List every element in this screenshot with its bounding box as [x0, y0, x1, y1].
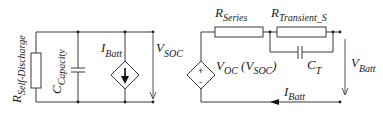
node-dot — [124, 31, 127, 34]
node-dot — [152, 31, 155, 34]
r-series-label: RSeries — [214, 5, 248, 23]
node-dot — [124, 101, 127, 104]
node-dot — [339, 101, 342, 104]
r-transient-label: RTransient_S — [270, 5, 327, 23]
r-transient-resistor — [277, 27, 326, 37]
node-dot — [332, 31, 335, 34]
v-oc-label: VOC (VSOC) — [216, 58, 277, 76]
c-capacity-label: CCapacity — [49, 49, 67, 94]
v-soc-label: VSOC — [156, 40, 183, 59]
circuit-diagram: RSelf-Discharge CCapacity IBatt VSOC + - — [0, 0, 383, 114]
arrow-left-icon — [270, 99, 279, 105]
minus-sign: - — [199, 77, 202, 87]
c-t-label: CT — [307, 57, 323, 76]
r-self-discharge-label: RSelf-Discharge — [9, 35, 27, 104]
left-circuit: RSelf-Discharge CCapacity IBatt VSOC — [9, 31, 183, 104]
right-circuit: + - RSeries RTransient_S — [187, 5, 376, 105]
r-self-discharge-resistor — [31, 53, 41, 88]
plus-sign: + — [198, 66, 203, 76]
i-batt-label: IBatt — [283, 84, 305, 102]
v-batt-label: VBatt — [351, 55, 376, 74]
node-dot — [77, 101, 80, 104]
node-dot — [269, 31, 272, 34]
node-dot — [339, 31, 342, 34]
node-dot — [152, 101, 155, 104]
i-batt-label: IBatt — [100, 40, 122, 59]
r-series-resistor — [215, 27, 263, 37]
node-dot — [77, 31, 80, 34]
